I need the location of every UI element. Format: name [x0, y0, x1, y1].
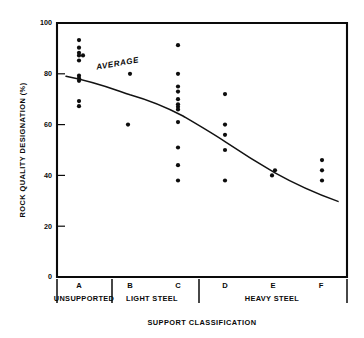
data-point [77, 46, 81, 50]
data-point [126, 123, 130, 127]
category-label-e: E [270, 281, 275, 290]
data-point [223, 133, 227, 137]
data-point [176, 72, 180, 76]
data-points-group-f [320, 158, 324, 183]
data-point [176, 97, 180, 101]
data-point [77, 104, 81, 108]
category-label-b: B [127, 281, 133, 290]
data-point [320, 158, 324, 162]
average-label: AVERAGE [95, 55, 140, 72]
data-point [81, 53, 85, 57]
x-axis-category-labels: A B C D E F [76, 281, 323, 290]
data-point [223, 178, 227, 182]
data-points-group-d [223, 92, 227, 183]
y-tick-label-100: 100 [40, 18, 52, 27]
category-label-f: F [319, 281, 324, 290]
data-point [176, 107, 180, 111]
y-axis-ticks [57, 23, 65, 277]
data-point [223, 92, 227, 96]
rqd-support-classification-chart: 100 80 60 40 20 0 ROCK QUALITY DESIGNATI… [0, 0, 364, 338]
y-tick-label-20: 20 [44, 222, 52, 231]
x-axis-title: SUPPORT CLASSIFICATION [147, 318, 256, 327]
y-tick-label-60: 60 [44, 120, 52, 129]
data-point [270, 173, 274, 177]
group-label-unsupported: UNSUPPORTED [54, 294, 115, 303]
data-point [320, 178, 324, 182]
y-axis-tick-labels: 100 80 60 40 20 0 [40, 18, 52, 281]
data-point [320, 168, 324, 172]
category-label-d: D [222, 281, 228, 290]
data-points-group-b [126, 72, 132, 127]
data-point [77, 38, 81, 42]
data-point [77, 53, 81, 57]
data-point [223, 123, 227, 127]
data-point [176, 145, 180, 149]
y-axis-title: ROCK QUALITY DESIGNATION (%) [18, 82, 27, 217]
data-point [176, 90, 180, 94]
y-tick-label-80: 80 [44, 69, 52, 78]
figure-container: 100 80 60 40 20 0 ROCK QUALITY DESIGNATI… [0, 0, 364, 338]
category-label-a: A [76, 281, 82, 290]
data-point [223, 148, 227, 152]
y-tick-label-0: 0 [48, 272, 52, 281]
data-point [176, 163, 180, 167]
group-label-light-steel: LIGHT STEEL [126, 294, 178, 303]
data-point [176, 120, 180, 124]
data-point [176, 43, 180, 47]
data-point [176, 178, 180, 182]
group-label-heavy-steel: HEAVY STEEL [245, 294, 300, 303]
x-axis-group-labels: UNSUPPORTED LIGHT STEEL HEAVY STEEL [54, 294, 300, 303]
data-point [128, 72, 132, 76]
data-point [77, 58, 81, 62]
data-point [77, 99, 81, 103]
data-points-group-a [77, 38, 85, 108]
y-tick-label-40: 40 [44, 171, 52, 180]
data-point [176, 84, 180, 88]
category-label-c: C [175, 281, 181, 290]
average-trend-line [66, 76, 338, 201]
